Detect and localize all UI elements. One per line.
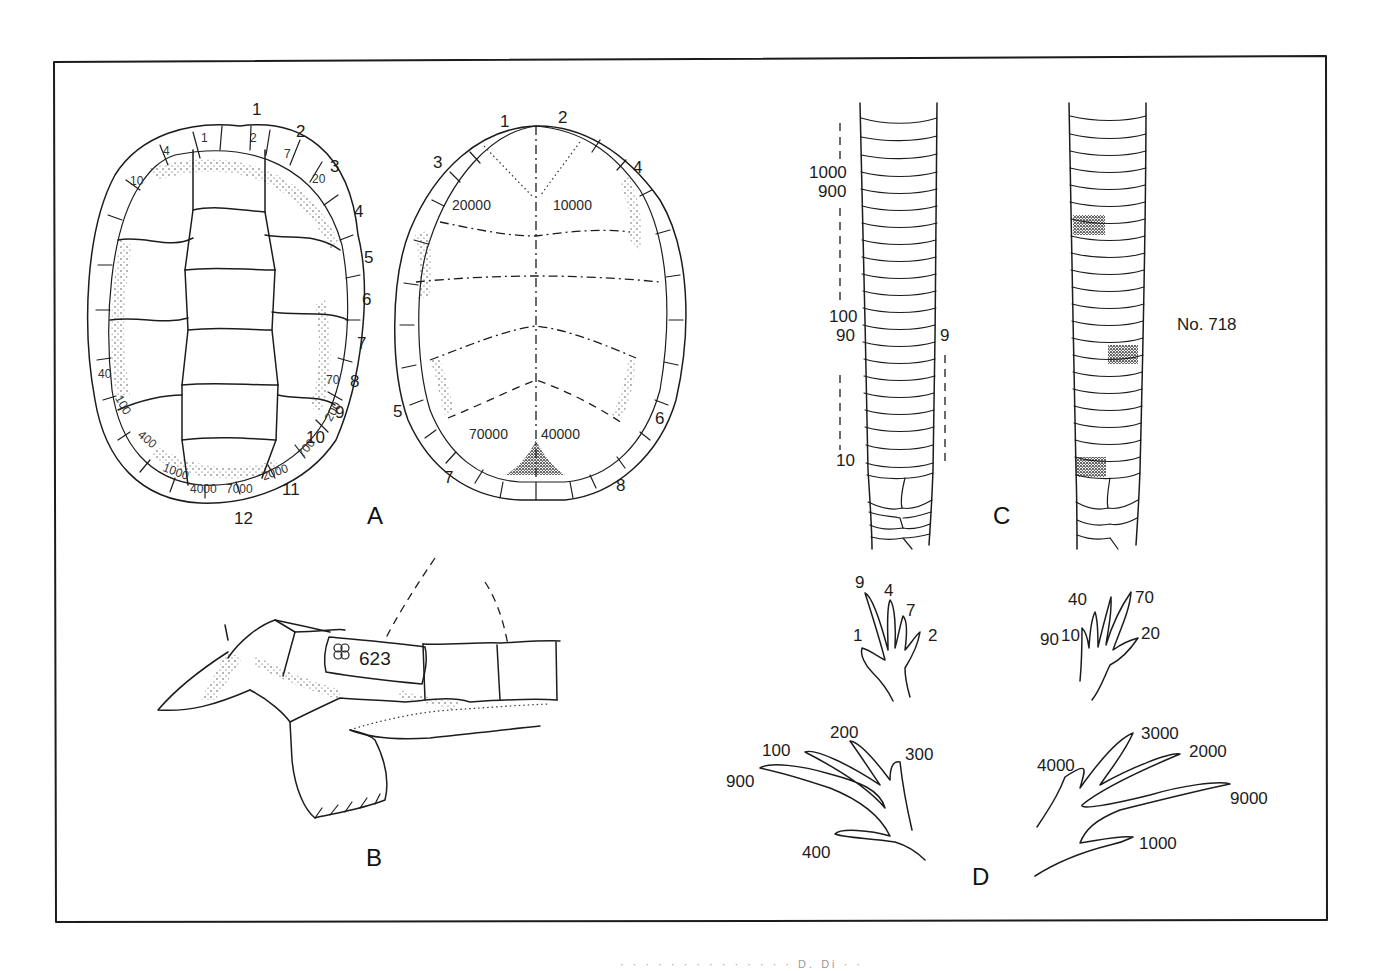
panel-d-hind-right-foot: 3000 4000 2000 9000 1000 [1035,724,1268,876]
toe-label: 20 [1141,624,1160,643]
tail-scale-rings [1070,116,1146,462]
scute-value: 70000 [469,426,508,442]
panel-letter-c: C [993,502,1010,529]
marginal-number: 7 [444,468,453,487]
panel-b-tag-illustration: 623 [158,558,560,818]
tail-label: 100 [829,307,857,326]
panel-a-carapace: 1 2 7 20 70 200 700 2000 4 10 40 100 400… [88,100,374,528]
tail-label: 10 [836,451,855,470]
panel-letter-a: A [367,502,383,529]
scute-value: 2 [250,131,257,145]
panel-d-front-right-foot: 40 90 70 10 20 [1040,588,1160,700]
marginal-number: 10 [306,428,325,447]
specimen-label: No. 718 [1177,315,1237,334]
marginal-number: 6 [362,290,371,309]
panel-d-front-left-foot: 9 4 7 1 2 [853,573,937,701]
toe-label: 4000 [1037,756,1075,775]
marginal-number: 4 [633,158,642,177]
toe-label: 400 [802,843,830,862]
toe-label: 10 [1061,626,1080,645]
marginal-number: 6 [655,409,664,428]
tail-label: 90 [836,326,855,345]
tail-label: 1000 [809,163,847,182]
notch-mark [1108,345,1138,364]
marginal-number: 1 [500,112,509,131]
scute-value: 400 [135,428,160,452]
toe-label: 2 [928,626,937,645]
scute-value: 7000 [226,482,253,496]
marginal-number: 3 [330,157,339,176]
toe-label: 900 [726,772,754,791]
panel-d-hind-left-foot: 200 100 300 900 400 [726,723,933,862]
tail-label: 9 [940,326,949,345]
tail-scale-rings [861,118,937,468]
panel-c-tail-right: No. 718 [1069,103,1237,549]
scute-value: 4000 [190,482,217,496]
marginal-number: 5 [393,402,402,421]
scute-value: 1 [201,131,208,145]
scute-value: 20000 [452,197,491,213]
panel-a-plastron: 20000 10000 70000 40000 1 2 3 4 5 6 7 8 [393,108,686,500]
marginal-number: 2 [296,122,305,141]
panel-c-tail-left: 1000 900 100 90 10 9 [809,103,949,549]
figure-canvas: 1 2 7 20 70 200 700 2000 4 10 40 100 400… [0,0,1375,971]
scute-value: 10000 [553,197,592,213]
scute-value: 7 [284,147,291,161]
toe-label: 200 [830,723,858,742]
notch-mark [1076,457,1106,477]
toe-label: 1 [853,626,862,645]
toe-label: 7 [906,601,915,620]
marginal-number: 9 [335,403,344,422]
marginal-number: 12 [234,509,253,528]
scute-value: 20 [312,172,326,186]
toe-label: 4 [884,581,893,600]
toe-label: 9 [855,573,864,592]
scute-value: 40 [98,367,112,381]
toe-label: 70 [1135,588,1154,607]
toe-label: 3000 [1141,724,1179,743]
marginal-number: 8 [350,372,359,391]
toe-label: 90 [1040,630,1059,649]
marginal-number: 11 [282,480,300,499]
marginal-number: 2 [558,108,567,127]
marginal-number: 4 [354,202,363,221]
marginal-number: 5 [364,248,373,267]
toe-label: 9000 [1230,789,1268,808]
marginal-number: 3 [433,153,442,172]
toe-label: 40 [1068,590,1087,609]
toe-label: 2000 [1189,742,1227,761]
marginal-number: 7 [357,334,366,353]
notch-mark [1073,215,1105,235]
caption-fragment: · · · · · · · · · · · · · · D. Di · · [620,958,863,970]
panel-letter-d: D [972,863,989,890]
scute-value: 4 [163,144,170,158]
figure-svg: 1 2 7 20 70 200 700 2000 4 10 40 100 400… [0,0,1375,971]
marginal-number: 8 [616,476,625,495]
marginal-number: 1 [252,100,261,119]
toe-label: 100 [762,741,790,760]
scute-value: 40000 [541,426,580,442]
toe-label: 300 [905,745,933,764]
scute-value: 70 [326,373,340,387]
plastron-marginal-divisions [400,140,683,500]
tag-number: 623 [359,648,391,669]
tail-label: 900 [818,182,846,201]
toe-label: 1000 [1139,834,1177,853]
scute-value: 10 [130,174,144,188]
panel-letter-b: B [366,844,382,871]
